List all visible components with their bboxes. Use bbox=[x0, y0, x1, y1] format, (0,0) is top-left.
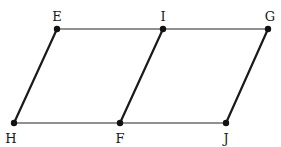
point-g bbox=[265, 26, 271, 32]
segment-eh bbox=[14, 29, 57, 123]
segment-gj bbox=[226, 29, 268, 123]
point-f bbox=[117, 120, 123, 126]
segments bbox=[14, 29, 268, 123]
label-h: H bbox=[5, 131, 16, 146]
label-g: G bbox=[265, 9, 275, 24]
label-f: F bbox=[115, 131, 124, 146]
label-e: E bbox=[52, 9, 62, 24]
label-i: I bbox=[160, 9, 165, 24]
segment-if bbox=[120, 29, 163, 123]
point-i bbox=[160, 26, 166, 32]
point-h bbox=[11, 120, 17, 126]
parallelogram-diagram: EIGHFJ bbox=[0, 0, 281, 147]
label-j: J bbox=[221, 131, 228, 146]
point-e bbox=[54, 26, 60, 32]
point-j bbox=[223, 120, 229, 126]
